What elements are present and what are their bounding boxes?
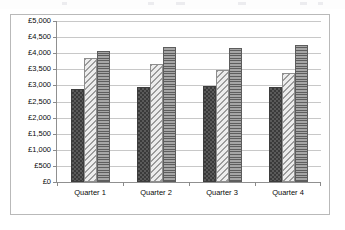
bar-3-quarter-3[interactable] <box>229 48 242 182</box>
bar-1-quarter-3[interactable] <box>203 86 216 182</box>
y-axis-label: £3,500 <box>28 66 51 74</box>
x-axis-tick <box>57 182 58 186</box>
chart-frame: £5,000£4,500£4,000£3,500£3,000£2,500£2,0… <box>10 14 330 215</box>
y-axis-label: £500 <box>34 162 51 170</box>
x-axis-label: Quarter 1 <box>74 189 106 197</box>
bars-layer <box>57 21 321 182</box>
y-axis-label: £2,500 <box>28 98 51 106</box>
y-axis-label: £1,000 <box>28 146 51 154</box>
bar-2-quarter-4[interactable] <box>282 73 295 182</box>
bar-1-quarter-4[interactable] <box>269 87 282 182</box>
bar-group <box>137 21 176 182</box>
y-axis-label: £3,000 <box>28 82 51 90</box>
bar-2-quarter-2[interactable] <box>150 64 163 182</box>
x-axis-label: Quarter 2 <box>140 189 172 197</box>
y-axis-label: £4,000 <box>28 49 51 57</box>
bar-group <box>269 21 308 182</box>
bar-1-quarter-1[interactable] <box>71 89 84 182</box>
x-axis-tick <box>189 182 190 186</box>
y-axis-label: £4,500 <box>28 33 51 41</box>
bar-group <box>71 21 110 182</box>
bar-chart: £5,000£4,500£4,000£3,500£3,000£2,500£2,0… <box>0 0 345 230</box>
x-axis-tick <box>255 182 256 186</box>
y-axis-label: £0 <box>43 178 51 186</box>
y-axis-label: £1,500 <box>28 130 51 138</box>
cropped-toolbar-remnant <box>0 0 345 9</box>
bar-3-quarter-1[interactable] <box>97 51 110 182</box>
bar-3-quarter-4[interactable] <box>295 45 308 182</box>
bar-2-quarter-3[interactable] <box>216 70 229 182</box>
plot-area: £5,000£4,500£4,000£3,500£3,000£2,500£2,0… <box>56 21 321 183</box>
x-axis-tick <box>320 182 321 186</box>
y-axis-label: £2,000 <box>28 114 51 122</box>
x-axis-label: Quarter 3 <box>206 189 238 197</box>
x-axis-tick <box>123 182 124 186</box>
y-axis-label: £5,000 <box>28 17 51 25</box>
bar-group <box>203 21 242 182</box>
bar-3-quarter-2[interactable] <box>163 47 176 182</box>
x-axis-label: Quarter 4 <box>272 189 304 197</box>
bar-1-quarter-2[interactable] <box>137 87 150 182</box>
bar-2-quarter-1[interactable] <box>84 58 97 182</box>
